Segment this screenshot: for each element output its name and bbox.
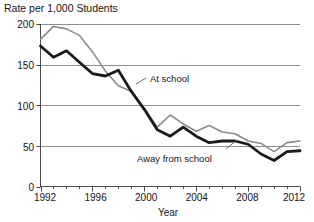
y-tick-label-150: 150 (17, 60, 34, 71)
x-tick-label-1992: 1992 (34, 192, 57, 203)
x-tick-label-2004: 2004 (186, 192, 209, 203)
x-tick-label-2012: 2012 (283, 192, 306, 203)
series-label-away-from-school: Away from school (137, 153, 212, 164)
chart-container: Rate per 1,000 Students At school Away f… (0, 0, 314, 222)
series-label-at-school: At school (150, 73, 189, 84)
x-tick-label-1996: 1996 (84, 192, 107, 203)
x-tick-label-2008: 2008 (236, 192, 259, 203)
y-tick-label-200: 200 (17, 19, 34, 30)
x-tick-label-2000: 2000 (135, 192, 158, 203)
line-chart: Rate per 1,000 Students At school Away f… (0, 0, 314, 222)
chart-title: Rate per 1,000 Students (4, 2, 118, 14)
x-axis-title: Year (158, 207, 179, 218)
y-tick-label-100: 100 (17, 101, 34, 112)
y-tick-label-50: 50 (23, 142, 35, 153)
